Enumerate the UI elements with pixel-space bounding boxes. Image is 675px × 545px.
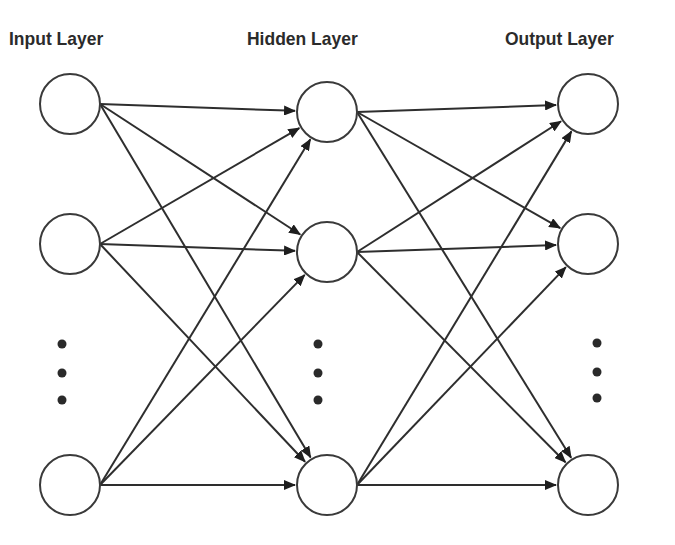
output-node-o3 [558, 455, 618, 515]
edge-h2-o3 [357, 252, 565, 462]
edge-i2-h2 [100, 244, 295, 251]
ellipsis-dots [58, 339, 602, 405]
edge-i2-h1 [100, 128, 299, 244]
edge-h1-o2 [357, 112, 560, 228]
output-ellipsis-dot-3 [593, 394, 602, 403]
hidden-ellipsis-dot-3 [314, 396, 323, 405]
edge-h2-o2 [357, 245, 556, 252]
hidden-ellipsis-dot-2 [314, 369, 323, 378]
input-ellipsis-dot-3 [58, 396, 67, 405]
edge-h1-o1 [357, 105, 556, 112]
hidden-node-h1 [297, 82, 357, 142]
input-node-i2 [40, 214, 100, 274]
input-ellipsis-dot-2 [58, 369, 67, 378]
neural-network-diagram [0, 0, 675, 545]
input-ellipsis-dot-1 [58, 340, 67, 349]
edge-i3-h2 [100, 275, 305, 485]
edge-i1-h2 [100, 104, 300, 235]
input-node-i1 [40, 74, 100, 134]
edge-i1-h1 [100, 104, 295, 111]
hidden-node-h3 [297, 455, 357, 515]
output-node-o1 [558, 74, 618, 134]
edge-i1-h3 [100, 104, 311, 458]
hidden-ellipsis-dot-1 [314, 340, 323, 349]
connection-edges [100, 104, 571, 485]
input-node-i3 [40, 455, 100, 515]
edge-h3-o2 [357, 267, 566, 485]
output-ellipsis-dot-2 [593, 368, 602, 377]
output-node-o2 [558, 214, 618, 274]
edge-h2-o1 [357, 121, 561, 252]
hidden-node-h2 [297, 222, 357, 282]
output-ellipsis-dot-1 [593, 339, 602, 348]
